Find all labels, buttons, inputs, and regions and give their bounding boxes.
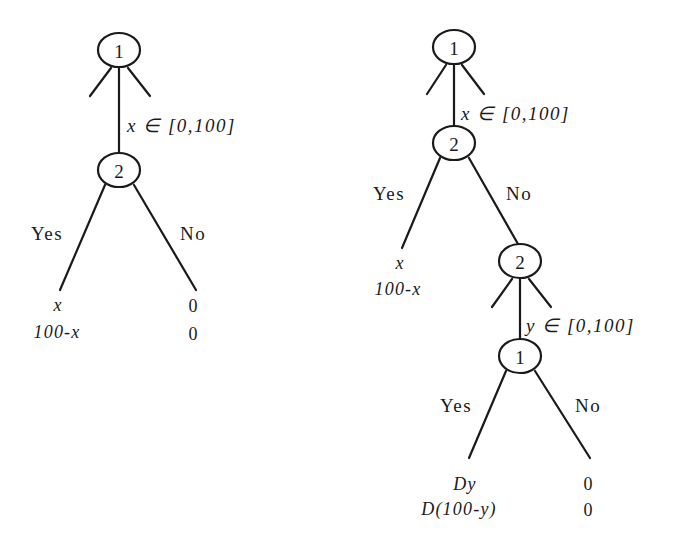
decision-node-player-2: 2 bbox=[98, 153, 140, 187]
offer-range-label-x: x ∈ [0,100] bbox=[460, 103, 570, 124]
node-player-label: 1 bbox=[449, 38, 459, 59]
action-no-label-round1: No bbox=[506, 183, 532, 204]
action-no-label-round2: No bbox=[575, 395, 601, 416]
right-game-tree: 1 2 2 1 x ∈ [0,100] Yes No x 100-x y ∈ [… bbox=[373, 30, 635, 520]
decision-node-player-2-counteroffer: 2 bbox=[499, 244, 541, 278]
edge-yes-round2 bbox=[469, 371, 506, 458]
payoff-yes-player1: x bbox=[52, 295, 62, 315]
offer-range-label-y: y ∈ [0,100] bbox=[524, 315, 635, 336]
offer-range-label: x ∈ [0,100] bbox=[126, 115, 236, 136]
decision-node-player-2: 2 bbox=[433, 126, 475, 160]
left-game-tree: 1 2 x ∈ [0,100] Yes No x 100-x 0 0 bbox=[31, 33, 236, 344]
payoff-round2-no-player1: 0 bbox=[584, 474, 593, 494]
payoff-no-player1: 0 bbox=[189, 296, 198, 316]
decision-node-player-1-response: 1 bbox=[499, 339, 541, 373]
edge-fan-left bbox=[427, 65, 446, 94]
node-player-label: 1 bbox=[114, 41, 124, 62]
action-yes-label-round1: Yes bbox=[373, 183, 405, 204]
payoff-yes-player2: 100-x bbox=[34, 322, 81, 342]
edge-yes-round1 bbox=[402, 158, 440, 248]
edge-fan-left-2 bbox=[492, 279, 512, 307]
edge-fan-right-2 bbox=[529, 279, 551, 307]
action-yes-label: Yes bbox=[31, 223, 63, 244]
decision-node-player-1: 1 bbox=[98, 33, 140, 67]
edge-fan-right bbox=[462, 65, 484, 94]
action-yes-label-round2: Yes bbox=[440, 395, 472, 416]
payoff-no-player2: 0 bbox=[189, 324, 198, 344]
edge-fan-right bbox=[128, 68, 150, 96]
node-player-label: 1 bbox=[515, 347, 525, 368]
payoff-round2-no-player2: 0 bbox=[584, 500, 593, 520]
payoff-round1-yes-player2: 100-x bbox=[375, 279, 422, 299]
node-player-label: 2 bbox=[515, 252, 525, 273]
payoff-round1-yes-player1: x bbox=[394, 253, 404, 273]
edge-yes bbox=[60, 185, 105, 290]
node-player-label: 2 bbox=[114, 161, 124, 182]
action-no-label: No bbox=[180, 223, 206, 244]
payoff-round2-yes-player2: D(100-y) bbox=[420, 499, 497, 520]
payoff-round2-yes-player1: Dy bbox=[452, 474, 476, 494]
edge-fan-left bbox=[90, 68, 111, 96]
decision-node-player-1: 1 bbox=[433, 30, 475, 64]
game-trees-diagram: 1 2 x ∈ [0,100] Yes No x 100-x 0 0 1 bbox=[0, 0, 679, 534]
node-player-label: 2 bbox=[449, 134, 459, 155]
